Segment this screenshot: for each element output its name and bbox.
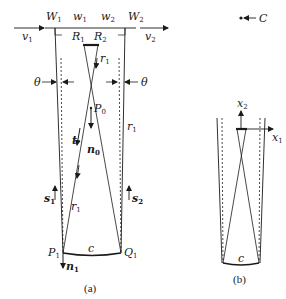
right-dashed-line: [119, 58, 121, 253]
label-r1-bottom: r1: [71, 200, 81, 214]
label-C: C: [259, 12, 268, 25]
label-x1: x1: [272, 131, 283, 145]
label-r1-right: r1: [127, 120, 137, 134]
caption-b: (b): [233, 273, 246, 286]
label-b-c: c: [238, 252, 244, 265]
b-right-dashed: [259, 118, 260, 263]
right-wall: [121, 28, 125, 253]
label-R2: R2: [93, 30, 107, 44]
label-n0: n0: [87, 143, 100, 157]
label-P0: P0: [93, 102, 106, 116]
label-x2: x2: [237, 97, 248, 111]
label-R1: R1: [71, 30, 85, 44]
label-v1: v1: [22, 30, 33, 44]
label-c: c: [88, 242, 94, 255]
left-wall: [55, 28, 63, 253]
label-r1-top: r1: [100, 52, 110, 66]
right-angle-right: [118, 28, 125, 35]
b-ray-1: [237, 129, 259, 263]
b-left-dashed: [222, 118, 223, 263]
label-v2: v2: [145, 30, 156, 44]
label-s2: s2: [132, 192, 143, 206]
b-ray-2: [223, 129, 246, 263]
b-left-wall: [217, 118, 222, 263]
right-angle-left: [55, 28, 62, 35]
label-w1: w1: [73, 10, 87, 24]
c-point: [239, 16, 242, 19]
label-t: t: [72, 134, 77, 147]
label-P1: P1: [47, 246, 60, 260]
label-W2: W2: [128, 10, 144, 24]
diagram-a: W1 w1 w2 W2 v1 v2 R1 R2 r1 θ θ P0 t n0 r…: [14, 10, 168, 295]
label-w2: w2: [101, 10, 115, 24]
r1-top-arrow: [96, 58, 97, 68]
label-Q1: Q1: [124, 246, 138, 260]
label-s1: s1: [44, 192, 55, 206]
diagram-canvas: W1 w1 w2 W2 v1 v2 R1 R2 r1 θ θ P0 t n0 r…: [0, 0, 286, 299]
b-right-wall: [260, 118, 265, 263]
label-n1: n1: [66, 260, 79, 274]
label-W1: W1: [46, 10, 62, 24]
diagram-b: C x2 x1 c (b): [217, 12, 283, 286]
caption-a: (a): [84, 282, 97, 295]
label-theta-right: θ: [141, 76, 148, 89]
t-arrow: [77, 128, 80, 145]
label-theta-left: θ: [34, 76, 41, 89]
